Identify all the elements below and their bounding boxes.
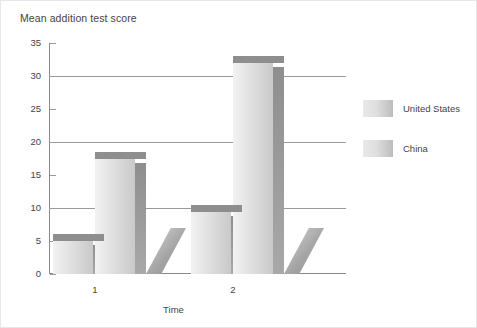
legend-label-united-states: United States xyxy=(403,103,460,114)
gridline xyxy=(49,142,346,143)
bar-front-face xyxy=(191,212,231,274)
bar-depth-wedge xyxy=(146,228,186,274)
plot-area xyxy=(49,43,346,274)
y-tick-label: 30 xyxy=(15,70,41,81)
bar-side-face xyxy=(273,67,284,274)
chart-title: Mean addition test score xyxy=(20,12,137,24)
bar-front-face xyxy=(233,63,273,274)
bar-top-face xyxy=(233,56,284,63)
x-tick-label: 2 xyxy=(213,284,253,295)
y-tick-mark xyxy=(50,175,56,176)
legend-swatch-china xyxy=(363,140,393,157)
y-tick-label: 15 xyxy=(15,169,41,180)
y-tick-label: 5 xyxy=(15,235,41,246)
y-tick-label: 35 xyxy=(15,37,41,48)
y-tick-mark xyxy=(50,43,56,44)
legend-swatch-united-states xyxy=(363,100,393,117)
y-tick-mark xyxy=(50,274,56,275)
bar-top-face xyxy=(53,234,104,241)
bar-front-face xyxy=(53,241,93,274)
legend-label-china: China xyxy=(403,143,428,154)
chart-figure: Mean addition test score 05101520253035 … xyxy=(0,0,477,328)
y-tick-mark xyxy=(50,109,56,110)
y-tick-label: 25 xyxy=(15,103,41,114)
bar-top-face xyxy=(191,205,242,212)
gridline xyxy=(49,76,346,77)
y-tick-label: 10 xyxy=(15,202,41,213)
y-tick-label: 0 xyxy=(15,268,41,279)
y-tick-label: 20 xyxy=(15,136,41,147)
bar-front-face xyxy=(95,159,135,274)
bar-depth-wedge xyxy=(284,228,324,274)
bar-side-face xyxy=(135,163,146,274)
x-tick-label: 1 xyxy=(75,284,115,295)
x-axis-label: Time xyxy=(1,304,346,315)
bar-top-face xyxy=(95,152,146,159)
